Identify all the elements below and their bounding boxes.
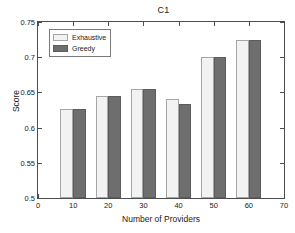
- y-tick-mark: [38, 163, 42, 164]
- bar-exhaustive-20: [96, 96, 109, 198]
- x-tick-mark-top: [284, 22, 285, 26]
- bar-greedy-30: [143, 89, 156, 198]
- legend-label-greedy: Greedy: [72, 45, 95, 53]
- y-tick-mark-right: [280, 198, 284, 199]
- x-tick-mark-top: [38, 22, 39, 26]
- y-tick-mark: [38, 57, 42, 58]
- x-tick-mark: [284, 194, 285, 198]
- x-tick-mark: [38, 194, 39, 198]
- bar-greedy-20: [108, 96, 121, 198]
- bar-exhaustive-50: [201, 57, 214, 199]
- x-tick-label: 60: [245, 201, 253, 210]
- bar-exhaustive-30: [131, 89, 144, 198]
- y-tick-mark: [38, 198, 42, 199]
- x-tick-label: 0: [36, 201, 40, 210]
- x-tick-label: 30: [139, 201, 147, 210]
- x-tick-mark-top: [73, 22, 74, 26]
- legend-swatch-exhaustive: [53, 34, 68, 41]
- x-tick-mark-top: [108, 22, 109, 26]
- x-tick-mark-top: [143, 22, 144, 26]
- chart-figure: C1 0.50.550.60.650.70.75 010203040506070…: [0, 0, 295, 233]
- x-tick-label: 40: [174, 201, 182, 210]
- y-tick-mark: [38, 128, 42, 129]
- y-tick-label: 0.5: [25, 194, 35, 203]
- plot-area: 0.50.550.60.650.70.75 010203040506070 Ex…: [37, 21, 285, 199]
- y-axis-label: Score: [11, 71, 21, 131]
- x-tick-mark-top: [249, 22, 250, 26]
- legend-item-exhaustive: Exhaustive: [53, 33, 106, 42]
- x-tick-label: 20: [104, 201, 112, 210]
- y-tick-mark-right: [280, 128, 284, 129]
- bar-greedy-60: [249, 40, 262, 198]
- y-tick-label: 0.55: [20, 158, 35, 167]
- bar-exhaustive-60: [236, 40, 249, 198]
- x-axis-label: Number of Providers: [37, 214, 285, 224]
- x-tick-mark-top: [214, 22, 215, 26]
- chart-title-text: C1: [158, 5, 170, 15]
- bar-exhaustive-40: [166, 99, 179, 198]
- bar-exhaustive-10: [60, 109, 73, 198]
- x-tick-label: 50: [210, 201, 218, 210]
- y-tick-mark-right: [280, 92, 284, 93]
- bar-greedy-40: [179, 104, 192, 198]
- legend-item-greedy: Greedy: [53, 44, 106, 53]
- legend-label-exhaustive: Exhaustive: [72, 34, 106, 42]
- y-tick-label: 0.75: [20, 18, 35, 27]
- y-tick-mark-right: [280, 57, 284, 58]
- x-tick-label: 70: [280, 201, 288, 210]
- y-tick-label: 0.65: [20, 88, 35, 97]
- y-tick-label: 0.6: [25, 123, 35, 132]
- x-tick-mark-top: [179, 22, 180, 26]
- y-tick-mark-right: [280, 163, 284, 164]
- y-tick-label: 0.7: [25, 53, 35, 62]
- chart-legend: Exhaustive Greedy: [49, 29, 111, 57]
- x-tick-label: 10: [69, 201, 77, 210]
- bar-greedy-10: [73, 109, 86, 198]
- bar-greedy-50: [214, 57, 227, 199]
- legend-swatch-greedy: [53, 45, 68, 52]
- y-tick-mark: [38, 92, 42, 93]
- chart-title: C1: [0, 5, 295, 15]
